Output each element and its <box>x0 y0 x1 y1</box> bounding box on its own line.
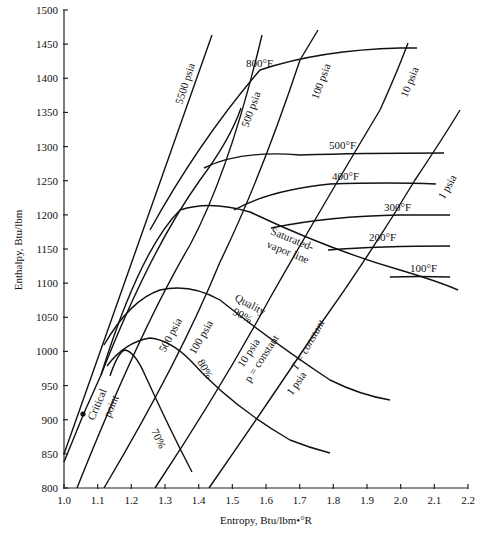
quality-70-label: 70% <box>149 427 168 450</box>
y-axis-title: Enthalpy, Btu/lbm <box>12 209 24 290</box>
label-100-psia-lower: 100 psia <box>186 318 215 356</box>
line-100F <box>390 277 450 278</box>
x-tick-label: 1.2 <box>124 494 138 506</box>
x-tick-label: 1.9 <box>360 494 374 506</box>
x-tick-label: 2.1 <box>427 494 441 506</box>
line-quality-70 <box>110 350 192 472</box>
y-tick-label: 1000 <box>36 345 59 357</box>
x-tick-label: 1.0 <box>57 494 71 506</box>
label-500-psia-lower: 500 psia <box>156 316 184 354</box>
x-tick-label: 1.1 <box>91 494 105 506</box>
y-tick-label: 950 <box>42 380 59 392</box>
y-tick-label: 1350 <box>36 106 59 118</box>
y-tick-label: 1500 <box>36 4 59 16</box>
line-500F <box>204 153 444 168</box>
y-tick-label: 1300 <box>36 141 59 153</box>
label-300F: 300°F <box>384 201 411 213</box>
y-tick-label: 800 <box>42 482 59 494</box>
y-tick-label: 1200 <box>36 209 59 221</box>
y-tick-label: 1150 <box>36 243 58 255</box>
y-tick-label: 1250 <box>36 175 59 187</box>
line-10-psia <box>155 43 408 488</box>
x-tick-label: 1.6 <box>259 494 273 506</box>
x-tick-label: 1.5 <box>225 494 239 506</box>
label-10-psia-upper: 10 psia <box>398 65 421 99</box>
label-100F: 100°F <box>410 262 437 274</box>
y-tick-label: 1400 <box>36 72 59 84</box>
x-tick-label: 1.7 <box>293 494 307 506</box>
x-tick-label: 2.0 <box>394 494 408 506</box>
label-5500-psia: 5500 psia <box>172 61 197 105</box>
x-ticks: 1.01.11.21.31.41.51.61.71.81.92.02.12.2 <box>57 484 475 506</box>
line-200F <box>328 246 450 250</box>
x-axis-title: Entropy, Btu/lbm•°R <box>220 514 313 526</box>
label-800F: 800°F <box>246 57 273 69</box>
y-tick-label: 900 <box>42 414 59 426</box>
line-300F <box>271 215 450 228</box>
label-1-psia-upper: 1 psia <box>435 172 458 201</box>
x-tick-label: 2.2 <box>461 494 475 506</box>
label-500F: 500°F <box>329 139 356 151</box>
t-constant-label: T = constant <box>288 317 327 372</box>
x-tick-label: 1.8 <box>326 494 340 506</box>
line-100-psia <box>104 30 318 488</box>
y-tick-label: 1450 <box>36 38 59 50</box>
y-tick-label: 1100 <box>36 277 58 289</box>
mollier-diagram: 8008509009501000105011001150120012501300… <box>0 0 484 539</box>
labels: Critical point 5500 psia 500 psia 500 ps… <box>12 57 459 526</box>
x-tick-label: 1.4 <box>192 494 206 506</box>
label-100-psia-upper: 100 psia <box>309 62 333 101</box>
y-tick-label: 850 <box>42 448 59 460</box>
x-tick-label: 1.3 <box>158 494 172 506</box>
line-500-psia <box>77 35 262 488</box>
y-ticks: 8008509009501000105011001150120012501300… <box>36 4 68 494</box>
y-tick-label: 1050 <box>36 311 59 323</box>
label-400F: 400°F <box>332 170 359 182</box>
label-200F: 200°F <box>369 231 396 243</box>
curves <box>64 30 460 488</box>
